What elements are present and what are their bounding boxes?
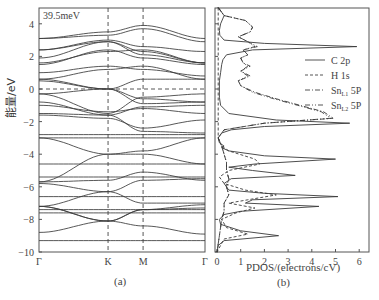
band-line — [39, 25, 205, 38]
band-line — [39, 89, 205, 104]
y-tick-label: 2 — [29, 51, 34, 62]
plot-frame-a — [39, 8, 205, 252]
k-point-label: M — [139, 256, 148, 267]
figure: 420−2−4−6−8−10ΓKMΓ 0123456C 2pH 1sSnL1 5… — [0, 0, 379, 300]
band-line — [39, 102, 205, 115]
pdos-line-c-2p — [217, 8, 357, 253]
band-line — [39, 138, 205, 154]
y-tick-label: −6 — [23, 182, 34, 193]
band-line — [39, 206, 205, 234]
band-line — [39, 115, 205, 128]
pdos-plot: 0123456C 2pH 1sSnL1 5PSnL2 5P — [215, 8, 370, 268]
band-line — [39, 81, 205, 102]
y-axis-label: 能量/eV — [2, 78, 18, 118]
band-line — [39, 179, 205, 192]
k-point-label: Γ — [202, 256, 208, 267]
y-tick-label: −8 — [23, 214, 34, 225]
band-structure-plot: 420−2−4−6−8−10ΓKMΓ — [18, 8, 208, 267]
x-axis-label-pdos: PDOS/(electrons/cV) — [246, 261, 340, 273]
band-line — [39, 50, 205, 63]
x-tick-label: 6 — [357, 256, 362, 267]
panel-b-label: (b) — [277, 276, 290, 288]
k-point-label: Γ — [36, 256, 42, 267]
y-tick-label: 4 — [29, 19, 34, 30]
k-point-label: K — [104, 256, 112, 267]
band-line — [39, 79, 205, 89]
band-line — [39, 29, 205, 42]
y-tick-label: −4 — [23, 149, 34, 160]
band-line — [39, 66, 205, 79]
legend-entry: C 2p — [331, 55, 350, 66]
legend-entry: SnL1 5P — [331, 85, 362, 97]
y-tick-label: 0 — [29, 84, 34, 95]
band-line — [39, 50, 205, 65]
legend-entry: H 1s — [331, 70, 350, 81]
panel-a-label: (a) — [114, 275, 126, 287]
band-line — [39, 192, 205, 207]
y-tick-label: −2 — [23, 117, 34, 128]
x-tick-label: 0 — [215, 256, 220, 267]
band-line — [39, 206, 205, 221]
annotation-text: 39.5meV — [43, 10, 80, 21]
y-tick-label: −10 — [18, 247, 34, 258]
x-tick-label: 1 — [238, 256, 243, 267]
legend-entry: SnL2 5P — [331, 100, 362, 112]
